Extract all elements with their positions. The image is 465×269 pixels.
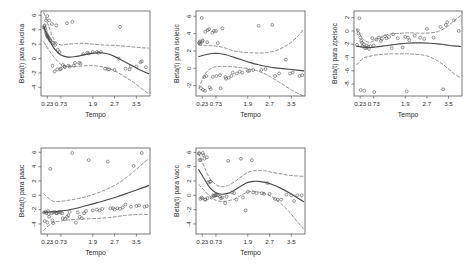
scatter-points <box>43 152 149 225</box>
x-tick-label: 3.5 <box>287 238 296 245</box>
scatter-points <box>42 15 147 73</box>
data-point <box>200 16 203 19</box>
y-tick-label: -2 <box>185 82 192 88</box>
lower-confidence-curve <box>199 66 304 96</box>
figure-panel-grid: 0.230.731.92.73.56420-2-4TempoBeta(t) pa… <box>0 0 465 269</box>
data-point <box>413 34 416 37</box>
data-point <box>235 72 238 75</box>
data-point <box>219 74 222 77</box>
data-point <box>457 29 460 32</box>
data-point <box>260 69 263 72</box>
y-axis-title: Beta(t) para paac <box>18 164 26 217</box>
data-point <box>50 23 53 26</box>
lower-confidence-curve <box>44 214 149 230</box>
y-tick-label: 0 <box>30 56 37 60</box>
x-tick-label: 0.73 <box>55 100 68 107</box>
data-point <box>425 27 428 30</box>
data-point <box>91 209 94 212</box>
data-point <box>51 64 54 67</box>
x-tick-label: 1.9 <box>243 238 252 245</box>
y-tick-label: 0 <box>185 66 192 70</box>
data-point <box>65 22 68 25</box>
data-point <box>219 87 222 90</box>
data-point <box>372 44 375 47</box>
x-tick-label: 0.73 <box>368 100 381 107</box>
x-tick-label: 0.23 <box>41 238 54 245</box>
data-point <box>390 47 393 50</box>
plot-svg-isoleuc: 0.230.731.92.73.56420-2TempoBeta(t) para… <box>155 0 310 130</box>
x-tick-label: 2.7 <box>423 100 432 107</box>
data-point <box>423 37 426 40</box>
data-point <box>396 37 399 40</box>
y-tick-label: 4 <box>185 31 192 35</box>
data-point <box>71 20 74 23</box>
y-tick-label: 4 <box>30 164 37 168</box>
y-tick-label: 4 <box>30 27 37 31</box>
y-tick-label: -2 <box>343 41 350 47</box>
data-point <box>238 70 241 73</box>
data-point <box>74 221 77 224</box>
data-point <box>76 211 79 214</box>
data-point <box>138 204 141 207</box>
y-tick-label: 6 <box>185 150 192 154</box>
data-point <box>373 91 376 94</box>
x-axis-title: Tempo <box>85 111 106 119</box>
data-point <box>250 159 253 162</box>
x-tick-label: 0.73 <box>55 238 68 245</box>
x-axis-title: Tempo <box>240 111 261 119</box>
y-tick-label: 0 <box>343 29 350 33</box>
data-point <box>300 194 303 197</box>
y-tick-label: -8 <box>343 81 350 87</box>
y-axis-title: Beta(t) para zpeisoc <box>331 22 339 83</box>
data-point <box>358 17 361 20</box>
data-point <box>274 75 277 78</box>
data-point <box>124 203 127 206</box>
plot-panel-leucina: 0.230.731.92.73.56420-2-4TempoBeta(t) pa… <box>0 0 155 130</box>
data-point <box>359 89 362 92</box>
data-point <box>46 221 49 224</box>
y-tick-label: -2 <box>30 206 37 212</box>
data-point <box>439 25 442 28</box>
data-point <box>293 200 296 203</box>
y-tick-label: -6 <box>343 67 350 73</box>
data-point <box>124 67 127 70</box>
data-point <box>363 89 366 92</box>
y-tick-label: 6 <box>185 14 192 18</box>
x-tick-label: 2.7 <box>110 238 119 245</box>
data-point <box>216 42 219 45</box>
plot-frame <box>41 11 150 96</box>
data-point <box>49 167 52 170</box>
plot-svg-vacc: 0.230.731.92.73.56420-2-4TempoBeta(t) pa… <box>155 134 310 269</box>
data-point <box>55 24 58 27</box>
y-tick-label: -4 <box>30 221 37 227</box>
data-point <box>257 24 260 27</box>
data-point <box>264 68 267 71</box>
data-point <box>48 19 51 22</box>
plot-svg-paac: 0.230.731.92.73.56420-2-4TempoBeta(t) pa… <box>0 134 155 269</box>
y-tick-label: 2 <box>185 179 192 183</box>
plot-panel-paac: 0.230.731.92.73.56420-2-4TempoBeta(t) pa… <box>0 134 155 269</box>
data-point <box>98 209 101 212</box>
data-point <box>71 152 74 155</box>
plot-panel-zpeisoc: 0.230.731.92.73.520-2-4-6-8TempoBeta(t) … <box>310 0 465 130</box>
data-point <box>231 71 234 74</box>
data-point <box>211 75 214 78</box>
data-point <box>116 207 119 210</box>
data-point <box>205 156 208 159</box>
y-tick-label: -2 <box>185 206 192 212</box>
data-point <box>284 58 287 61</box>
data-point <box>240 157 243 160</box>
y-tick-label: -4 <box>185 221 192 227</box>
x-tick-label: 1.9 <box>401 100 410 107</box>
data-point <box>121 206 124 209</box>
data-point <box>51 219 54 222</box>
data-point <box>206 41 209 44</box>
data-point <box>405 90 408 93</box>
x-tick-label: 0.73 <box>210 238 223 245</box>
x-tick-label: 2.7 <box>265 238 274 245</box>
x-tick-label: 3.5 <box>132 100 141 107</box>
data-point <box>227 159 230 162</box>
x-tick-label: 3.5 <box>132 238 141 245</box>
x-tick-label: 0.23 <box>196 100 209 107</box>
upper-confidence-curve <box>44 12 149 48</box>
